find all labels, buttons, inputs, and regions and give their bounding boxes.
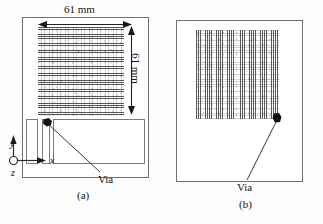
- figure-container: 61 mm 61 mm y x z Via (a) Via (b): [0, 0, 323, 224]
- panel-b-via-label: Via: [237, 182, 252, 193]
- panel-b-graphics: [0, 0, 323, 224]
- panel-b-caption: (b): [239, 199, 252, 210]
- panel-b-via-callout: [247, 113, 282, 180]
